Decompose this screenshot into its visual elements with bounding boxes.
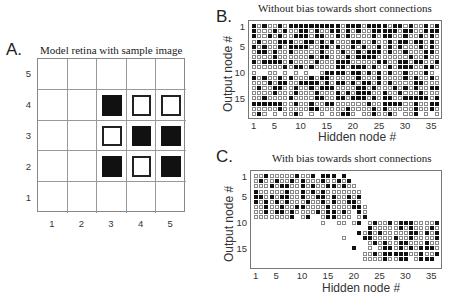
connection-open (435, 91, 439, 95)
connection-open (257, 91, 261, 95)
connection-filled (278, 107, 282, 111)
connection-filled (285, 184, 289, 188)
connection-open (419, 102, 423, 106)
connection-filled (304, 34, 308, 38)
connection-open (383, 50, 387, 54)
connection-filled (383, 107, 387, 111)
connection-open (254, 205, 258, 209)
connection-filled (254, 195, 258, 199)
connection-filled (435, 29, 439, 33)
connection-open (404, 231, 408, 235)
connection-open (430, 236, 434, 240)
connection-filled (419, 257, 423, 261)
retina-cell (156, 59, 186, 90)
connection-open (414, 34, 418, 38)
connection-open (393, 112, 397, 116)
connection-open (403, 24, 407, 28)
connection-filled (304, 40, 308, 44)
connection-open (377, 107, 381, 111)
connection-open (257, 96, 261, 100)
connection-open (398, 96, 402, 100)
connection-open (330, 60, 334, 64)
connection-open (280, 200, 284, 204)
connection-open (378, 226, 382, 230)
connection-open (320, 29, 324, 33)
panel-b-title: Without bias towards short connections (258, 2, 432, 14)
connection-filled (315, 81, 319, 85)
connection-open (259, 210, 263, 214)
connection-filled (283, 40, 287, 44)
connection-open (352, 190, 356, 194)
connection-filled (320, 45, 324, 49)
connection-filled (299, 29, 303, 33)
connection-open (315, 76, 319, 80)
connection-filled (304, 45, 308, 49)
connection-filled (294, 112, 298, 116)
connection-open (341, 102, 345, 106)
connection-filled (330, 24, 334, 28)
connection-filled (268, 81, 272, 85)
connection-filled (295, 205, 299, 209)
connection-filled (325, 55, 329, 59)
connection-filled (414, 231, 418, 235)
connection-open (259, 174, 263, 178)
connection-open (320, 102, 324, 106)
connection-filled (341, 81, 345, 85)
connection-filled (403, 50, 407, 54)
connection-open (388, 60, 392, 64)
connection-filled (388, 29, 392, 33)
connection-open (404, 226, 408, 230)
connection-filled (259, 195, 263, 199)
connection-filled (388, 252, 392, 256)
connection-open (430, 221, 434, 225)
connection-filled (383, 34, 387, 38)
connection-open (257, 55, 261, 59)
connection-filled (264, 174, 268, 178)
connection-open (295, 179, 299, 183)
connection-filled (399, 257, 403, 261)
x-tick-label: 5 (272, 120, 277, 131)
connection-filled (372, 86, 376, 90)
connection-filled (278, 34, 282, 38)
connection-open (425, 252, 429, 256)
connection-open (435, 112, 439, 116)
connection-open (273, 96, 277, 100)
connection-filled (383, 241, 387, 245)
connection-open (304, 96, 308, 100)
connection-open (273, 40, 277, 44)
connection-filled (430, 34, 434, 38)
connection-open (257, 29, 261, 33)
connection-filled (430, 45, 434, 49)
connection-open (362, 71, 366, 75)
connection-filled (372, 65, 376, 69)
connection-filled (362, 65, 366, 69)
connection-filled (289, 45, 293, 49)
connection-filled (362, 91, 366, 95)
connection-open (299, 91, 303, 95)
connection-open (337, 200, 341, 204)
connection-open (262, 107, 266, 111)
x-tick-label: 30 (400, 120, 411, 131)
connection-open (268, 45, 272, 49)
connection-open (311, 195, 315, 199)
connection-filled (326, 174, 330, 178)
connection-filled (273, 102, 277, 106)
connection-filled (430, 40, 434, 44)
connection-open (362, 76, 366, 80)
connection-filled (262, 24, 266, 28)
connection-filled (257, 112, 261, 116)
connection-open (257, 65, 261, 69)
connection-open (289, 81, 293, 85)
connection-open (388, 76, 392, 80)
connection-open (347, 184, 351, 188)
connection-filled (285, 200, 289, 204)
y-tick-label: 4 (17, 99, 31, 110)
connection-open (280, 174, 284, 178)
connection-filled (273, 91, 277, 95)
connection-open (321, 184, 325, 188)
x-tick-label: 10 (297, 270, 308, 281)
connection-open (330, 76, 334, 80)
connection-open (393, 50, 397, 54)
connection-open (383, 81, 387, 85)
connection-open (367, 86, 371, 90)
